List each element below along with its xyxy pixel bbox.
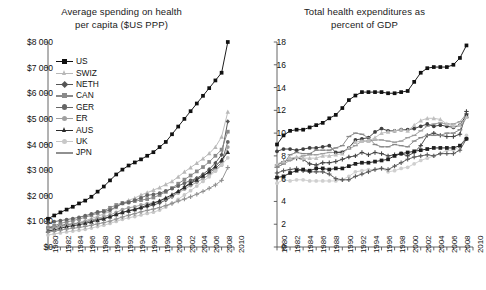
y-tick-label: $5 000 [9,114,53,124]
y-tick-label: 16 [260,60,286,70]
plot-area-gdp [277,42,473,247]
x-tick-label: 1982 [293,236,302,253]
legend-marker-icon [56,137,73,146]
figure-root: Average spending on health per capita ($… [0,0,486,290]
chart-title-gdp-line2: percent of GDP [243,19,486,32]
y-tick-label: $4 000 [9,140,53,150]
y-tick-label: $1 000 [9,216,53,226]
chart-title-gdp: Total health expenditures as percent of … [243,6,486,31]
x-tick-label: 2000 [175,236,184,253]
x-tick-label: 1986 [88,236,97,253]
x-tick-label: 1998 [163,236,172,253]
chart-title-spending-line1: Average spending on health [0,6,243,19]
y-tick-label: $7 000 [9,63,53,73]
x-tick-label: 1996 [150,236,159,253]
x-tick-label: 2010 [476,236,485,253]
y-tick-label: 14 [260,83,286,93]
y-tick-label: 18 [260,37,286,47]
y-tick-label: $6 000 [9,88,53,98]
plot-svg-gdp [277,42,473,247]
legend-marker-icon [56,114,73,123]
chart-title-spending-line2: per capita ($US PPP) [0,19,243,32]
x-tick-label: 1994 [138,236,147,253]
legend-item-label: ER [76,114,88,123]
legend-item-label: US [76,57,88,66]
legend-item-label: NETH [76,80,99,89]
x-tick-label: 2002 [424,236,433,253]
legend-item-label: CAN [76,91,94,100]
x-tick-label: 2006 [450,236,459,253]
x-tick-label: 1988 [332,236,341,253]
x-tick-label: 2008 [463,236,472,253]
legend-item-label: AUS [76,126,93,135]
chart-panel-gdp: Total health expenditures as percent of … [243,0,486,290]
y-tick-label: 2 [260,219,286,229]
chart-title-spending: Average spending on health per capita ($… [0,6,243,31]
legend-item[interactable]: UK [56,136,99,147]
x-tick-label: 1992 [359,236,368,253]
legend-item-label: UK [76,137,88,146]
y-tick-label: $2 000 [9,191,53,201]
legend-marker-icon [56,103,73,112]
x-tick-label: 2006 [212,236,221,253]
y-tick-label: $3 000 [9,165,53,175]
chart-title-gdp-line1: Total health expenditures as [243,6,486,19]
x-tick-label: 1994 [372,236,381,253]
legend-marker-icon [56,126,73,135]
y-tick-label: 6 [260,174,286,184]
x-tick-label: 1990 [113,236,122,253]
x-tick-label: 2002 [188,236,197,253]
y-tick-label: 12 [260,105,286,115]
legend-item[interactable]: CAN [56,90,99,101]
x-tick-label: 1980 [280,236,289,253]
legend-item[interactable]: GER [56,102,99,113]
x-tick-label: 1998 [398,236,407,253]
legend-item[interactable]: AUS [56,124,99,135]
x-tick-label: 1980 [51,236,60,253]
x-tick-label: 2008 [225,236,234,253]
x-tick-label: 1986 [319,236,328,253]
legend-marker-icon [56,57,73,66]
legend-item[interactable]: US [56,56,99,67]
x-tick-label: 2004 [437,236,446,253]
legend-marker-icon [56,148,73,157]
legend-item-label: SWIZ [76,69,97,78]
x-tick-label: 1990 [346,236,355,253]
x-tick-label: 1996 [385,236,394,253]
chart-panel-spending: Average spending on health per capita ($… [0,0,243,290]
x-tick-label: 2000 [411,236,420,253]
y-tick-label: $0 [9,242,53,252]
y-tick-label: 10 [260,128,286,138]
x-tick-label: 2004 [200,236,209,253]
x-tick-label: 1984 [76,236,85,253]
legend-item-label: GER [76,103,94,112]
legend-marker-icon [56,69,73,78]
y-tick-label: $8 000 [9,37,53,47]
x-tick-label: 1982 [64,236,73,253]
legend-spending: USSWIZNETHCANGERERAUSUKJPN [56,56,99,159]
y-tick-label: 4 [260,196,286,206]
x-tick-label: 1988 [101,236,110,253]
legend-item[interactable]: NETH [56,79,99,90]
legend-item[interactable]: SWIZ [56,67,99,78]
legend-item[interactable]: ER [56,113,99,124]
x-tick-label: 1984 [306,236,315,253]
legend-item-label: JPN [76,148,92,157]
y-tick-label: 8 [260,151,286,161]
legend-item[interactable]: JPN [56,147,99,158]
x-tick-label: 1992 [126,236,135,253]
legend-marker-icon [56,80,73,89]
legend-marker-icon [56,91,73,100]
